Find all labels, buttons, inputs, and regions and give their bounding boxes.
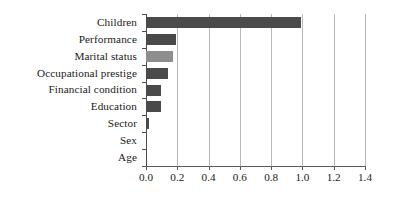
y-axis-label-row: Financial condition [0,82,142,99]
x-axis-tick-label: 1.0 [295,172,309,183]
x-axis-tick-label: 0.0 [139,172,153,183]
x-axis-tick [302,166,303,170]
bar-row [146,82,365,99]
bar [146,34,176,45]
y-axis-label-row: Sector [0,115,142,132]
bar-row [146,149,365,166]
y-axis-tick [142,82,146,83]
y-axis-label: Sector [108,118,137,129]
bar-row [146,98,365,115]
y-axis-label-row: Education [0,98,142,115]
bar-row [146,31,365,48]
bar-chart: ChildrenPerformanceMarital statusOccupat… [0,0,400,218]
bar-row [146,48,365,65]
x-axis-tick [209,166,210,170]
bar [146,152,147,163]
x-axis-tick-label: 0.2 [170,172,184,183]
y-axis-label: Children [97,17,137,28]
x-axis-tick-label: 1.4 [358,172,372,183]
bar-row [146,65,365,82]
y-axis-tick [142,132,146,133]
y-axis-tick [142,98,146,99]
y-axis-label-row: Children [0,14,142,31]
x-axis-tick [365,166,366,170]
y-axis-label: Age [118,152,137,163]
y-axis-label: Marital status [74,51,137,62]
y-axis-label: Education [91,101,137,112]
y-axis-tick [142,48,146,49]
x-axis-tick [334,166,335,170]
y-axis-tick [142,14,146,15]
bar [146,85,161,96]
gridline [365,14,366,166]
y-axis-label-row: Age [0,149,142,166]
bar [146,68,168,79]
bar [146,51,173,62]
x-axis-tick-label: 0.6 [233,172,247,183]
x-axis-tick-label: 1.2 [327,172,341,183]
y-axis-tick [142,149,146,150]
bar-row [146,115,365,132]
y-axis-label: Occupational prestige [37,68,137,79]
y-axis-label-row: Occupational prestige [0,65,142,82]
bar [146,101,161,112]
y-axis-label-row: Sex [0,132,142,149]
bar [146,135,147,146]
x-axis-tick [271,166,272,170]
y-axis-label: Financial condition [48,84,137,95]
x-axis-tick [177,166,178,170]
x-axis-tick-label: 0.4 [202,172,216,183]
y-axis-label: Sex [120,135,137,146]
x-axis-tick [146,166,147,170]
y-axis-label-row: Marital status [0,48,142,65]
bars-container [146,14,365,166]
y-axis-label: Performance [79,34,137,45]
bar [146,118,149,129]
y-axis-tick [142,31,146,32]
x-axis-tick-label: 0.8 [264,172,278,183]
bar [146,17,301,28]
x-axis-tick [240,166,241,170]
bar-row [146,132,365,149]
y-axis-tick [142,115,146,116]
y-axis-label-row: Performance [0,31,142,48]
plot-area [146,14,365,166]
y-axis-category-labels: ChildrenPerformanceMarital statusOccupat… [0,14,142,166]
y-axis-tick [142,65,146,66]
bar-row [146,14,365,31]
